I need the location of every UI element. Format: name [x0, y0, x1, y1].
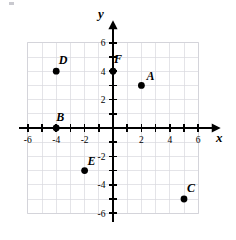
coordinate-plane-svg: -6-4-2246642-2-4-6 x y ABCDEF	[0, 0, 236, 240]
y-axis-tick-label: -4	[98, 180, 106, 190]
y-axis-tick-label: -6	[98, 209, 106, 219]
plotted-point[interactable]: A	[138, 69, 154, 88]
point-label-d: D	[58, 53, 68, 67]
y-axis-name: y	[96, 6, 104, 21]
point-marker-b[interactable]	[53, 125, 60, 132]
y-axis-label: y	[96, 6, 104, 21]
coordinate-plane-figure: -6-4-2246642-2-4-6 x y ABCDEF	[0, 0, 236, 240]
x-axis-tick-label: -4	[52, 135, 60, 145]
y-axis-arrow-icon	[108, 20, 117, 29]
point-marker-e[interactable]	[81, 167, 88, 174]
x-axis-tick-label: -2	[81, 135, 89, 145]
x-axis-tick-label: 4	[167, 135, 172, 145]
x-axis-tick-label: -6	[24, 135, 32, 145]
point-marker-a[interactable]	[138, 82, 145, 89]
x-axis-tick-label: 2	[139, 135, 144, 145]
y-axis-tick-label: 4	[101, 67, 106, 77]
x-axis-label: x	[215, 130, 223, 145]
x-axis-tick-label: 6	[196, 135, 201, 145]
y-axis-tick-label: -2	[98, 152, 106, 162]
point-label-a: A	[145, 69, 154, 83]
point-label-f: F	[113, 52, 122, 66]
point-marker-c[interactable]	[181, 196, 188, 203]
y-axis-tick-label: 6	[101, 38, 106, 48]
point-label-c: C	[187, 181, 196, 195]
scan-artifact	[9, 2, 14, 5]
x-axis-name: x	[215, 130, 223, 145]
point-marker-d[interactable]	[53, 68, 60, 75]
point-marker-f[interactable]	[110, 68, 117, 75]
point-label-e: E	[87, 154, 96, 168]
point-label-b: B	[55, 110, 64, 124]
y-axis-tick-label: 2	[101, 95, 106, 105]
